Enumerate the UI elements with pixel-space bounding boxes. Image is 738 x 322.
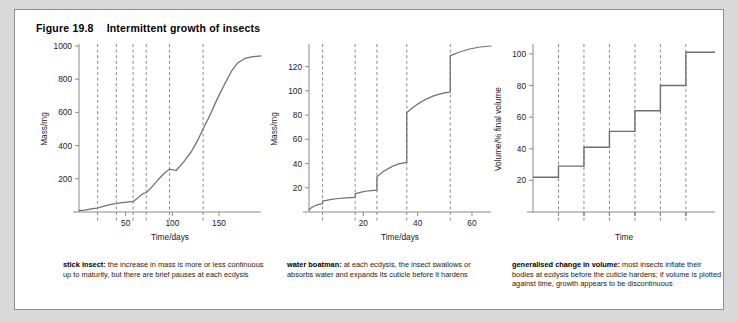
svg-text:50: 50: [121, 218, 131, 228]
svg-text:60: 60: [517, 112, 527, 122]
svg-text:20: 20: [517, 175, 527, 185]
svg-text:Mass/mg: Mass/mg: [269, 112, 279, 146]
svg-text:120: 120: [288, 62, 302, 72]
svg-text:40: 40: [293, 159, 303, 169]
caption-water-boatman: water boatman: at each ecdysis, the inse…: [287, 260, 492, 279]
caption-stick-insect: stick insect: the increase in mass is mo…: [63, 260, 268, 279]
figure-title-text: Intermittent growth of insects: [107, 22, 261, 34]
svg-text:Volume/% final volume: Volume/% final volume: [493, 87, 503, 171]
svg-text:Mass/mg: Mass/mg: [39, 112, 49, 146]
chart-panel-water-boatman: 20406080100120204060Time/daysMass/mg: [263, 36, 495, 251]
chart-panel-generalised-volume: 20406080100TimeVolume/% final volume: [487, 36, 719, 251]
svg-text:150: 150: [212, 218, 226, 228]
svg-text:20: 20: [293, 183, 303, 193]
svg-text:Time/days: Time/days: [381, 232, 419, 242]
svg-text:600: 600: [58, 107, 72, 117]
svg-text:1000: 1000: [54, 41, 73, 51]
caption-lead: water boatman:: [287, 260, 342, 269]
svg-text:100: 100: [512, 49, 526, 59]
svg-text:400: 400: [58, 141, 72, 151]
caption-lead: stick insect:: [63, 260, 106, 269]
svg-text:40: 40: [413, 218, 423, 228]
svg-text:Time: Time: [615, 232, 634, 242]
svg-text:60: 60: [293, 134, 303, 144]
figure-title: Figure 19.8Intermittent growth of insect…: [36, 22, 260, 34]
svg-text:40: 40: [517, 144, 527, 154]
chart-panel-stick-insect: 200400600800100050100150Time/daysMass/mg: [33, 36, 265, 251]
figure-number: Figure 19.8: [36, 22, 94, 34]
svg-text:800: 800: [58, 74, 72, 84]
svg-text:80: 80: [293, 110, 303, 120]
svg-text:100: 100: [288, 86, 302, 96]
caption-generalised-volume: generalised change in volume: most insec…: [512, 260, 725, 289]
svg-text:60: 60: [467, 218, 477, 228]
svg-text:20: 20: [359, 218, 369, 228]
svg-text:Time/days: Time/days: [151, 232, 189, 242]
svg-text:80: 80: [517, 81, 527, 91]
figure-card: Figure 19.8Intermittent growth of insect…: [14, 9, 724, 310]
caption-lead: generalised change in volume:: [512, 260, 620, 269]
svg-text:200: 200: [58, 174, 72, 184]
svg-text:100: 100: [165, 218, 179, 228]
